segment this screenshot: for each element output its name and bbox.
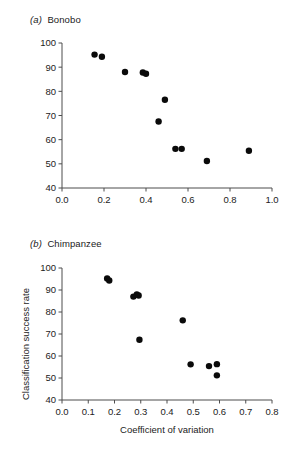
x-axis-label: Coefficient of variation [120,424,214,435]
y-tick-label: 90 [45,62,56,73]
data-point [246,148,252,154]
data-point [204,158,210,164]
panel-b-name: Chimpanzee [47,238,101,249]
data-point [162,97,168,103]
data-point [143,70,149,76]
x-tick-label: 0.1 [82,406,95,417]
panel-b-svg: 4050607080901000.00.10.20.30.40.50.60.70… [0,250,295,464]
y-tick-label: 60 [45,350,56,361]
y-tick-label: 90 [45,284,56,295]
x-tick-label: 0.4 [160,406,173,417]
y-tick-label: 50 [45,158,56,169]
data-point [106,277,112,283]
x-tick-label: 0.0 [55,406,68,417]
data-point [214,361,220,367]
data-point [172,146,178,152]
x-tick-label: 0.3 [134,406,147,417]
x-tick-label: 0.2 [97,194,110,205]
y-tick-label: 50 [45,372,56,383]
y-tick-label: 100 [40,262,56,273]
x-tick-label: 0.8 [265,406,278,417]
data-point [122,69,128,75]
x-tick-label: 0.7 [239,406,252,417]
data-point [214,372,220,378]
panel-b-title: (b) Chimpanzee [30,238,102,249]
y-tick-label: 80 [45,306,56,317]
panel-b-plot-area: 4050607080901000.00.10.20.30.40.50.60.70… [0,250,295,464]
panel-a-plot-area: 4050607080901000.00.20.40.60.81.0 [0,0,295,205]
data-point [187,361,193,367]
x-tick-label: 0.0 [55,194,68,205]
data-point [206,363,212,369]
y-tick-label: 60 [45,134,56,145]
data-point [99,54,105,60]
x-tick-label: 0.5 [187,406,200,417]
x-tick-label: 0.6 [181,194,194,205]
data-point [155,118,161,124]
data-point [179,146,185,152]
y-tick-label: 80 [45,86,56,97]
y-tick-label: 40 [45,394,56,405]
panel-a-svg: 4050607080901000.00.20.40.60.81.0 [0,0,295,205]
x-tick-label: 0.2 [108,406,121,417]
x-tick-label: 1.0 [265,194,278,205]
x-tick-label: 0.8 [223,194,236,205]
y-tick-label: 70 [45,110,56,121]
x-tick-label: 0.4 [139,194,152,205]
data-point [180,317,186,323]
y-tick-label: 70 [45,328,56,339]
data-point [135,292,141,298]
x-tick-label: 0.6 [213,406,226,417]
data-point [91,51,97,57]
y-tick-label: 40 [45,182,56,193]
y-tick-label: 100 [40,37,56,48]
data-point [136,337,142,343]
panel-b-tag: (b) [30,238,42,249]
